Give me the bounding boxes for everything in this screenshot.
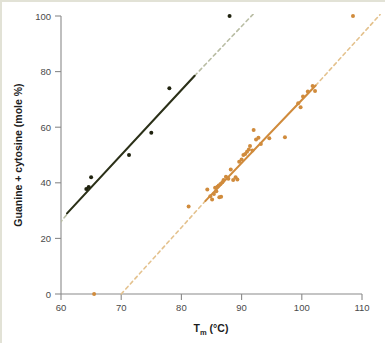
data-point	[210, 197, 214, 201]
x-tick-label-80: 80	[176, 302, 187, 313]
y-tick-label-60: 60	[40, 122, 51, 133]
axes-group	[61, 16, 362, 294]
data-point	[149, 131, 153, 135]
data-point	[259, 142, 263, 146]
data-point	[205, 187, 209, 191]
data-point	[226, 177, 230, 181]
data-point	[167, 86, 171, 90]
data-point	[229, 167, 233, 171]
data-point	[127, 153, 131, 157]
data-series-layer	[60, 10, 380, 296]
x-tick-label-90: 90	[236, 302, 247, 313]
low-salt-dna-fit-line	[67, 76, 195, 214]
data-point	[214, 189, 218, 193]
data-point	[228, 14, 232, 18]
data-point	[311, 84, 315, 88]
high-salt-dna-extension-1	[316, 15, 380, 86]
data-point	[351, 14, 355, 18]
data-point	[219, 195, 223, 199]
x-tick-label-100: 100	[294, 302, 310, 313]
data-point	[301, 95, 305, 99]
data-point	[313, 89, 317, 93]
data-point	[235, 177, 239, 181]
x-axis-title: Tm (°C)	[194, 322, 229, 337]
scatter-plot-canvas: 100 80 60 40 20 0 60 70 80 90 100	[0, 0, 385, 343]
data-point	[256, 136, 260, 140]
low-salt-dna-extension-1	[195, 10, 257, 75]
x-tick-label-110: 110	[354, 302, 369, 313]
data-point	[283, 135, 287, 139]
y-axis-ticks: 100 80 60 40 20 0	[35, 11, 61, 300]
data-point	[299, 105, 303, 109]
data-point	[89, 175, 93, 179]
x-tick-label-70: 70	[116, 302, 127, 313]
svg-text:Tm (°C): Tm (°C)	[194, 322, 229, 337]
data-point	[296, 101, 300, 105]
data-point	[248, 144, 252, 148]
data-point	[87, 185, 91, 189]
y-tick-label-0: 0	[46, 289, 51, 300]
x-axis-title-unit: (°C)	[207, 322, 229, 334]
data-point	[306, 90, 310, 94]
x-tick-label-60: 60	[56, 302, 67, 313]
y-axis-title: Guanine + cytosine (mole %)	[12, 83, 24, 226]
data-point	[240, 157, 244, 161]
data-point	[187, 204, 191, 208]
y-tick-label-40: 40	[40, 177, 51, 188]
data-point	[92, 292, 96, 296]
data-point	[267, 136, 271, 140]
chart-figure: 100 80 60 40 20 0 60 70 80 90 100	[0, 0, 385, 343]
x-axis-ticks: 60 70 80 90 100 110	[56, 294, 370, 313]
high-salt-dna-extension-0	[121, 201, 205, 294]
data-point	[252, 128, 256, 132]
y-tick-label-100: 100	[35, 11, 51, 22]
y-tick-label-20: 20	[40, 233, 51, 244]
data-point	[222, 178, 226, 182]
data-point	[250, 149, 254, 153]
y-tick-label-80: 80	[40, 66, 51, 77]
